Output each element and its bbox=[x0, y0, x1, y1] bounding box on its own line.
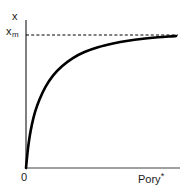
y-axis-asymptote-label: xm bbox=[6, 26, 19, 39]
origin-label: 0 bbox=[21, 172, 27, 183]
x-axis-label-superscript: * bbox=[161, 171, 165, 181]
data-curve bbox=[26, 36, 176, 168]
plot-area bbox=[0, 0, 180, 190]
x-axis-label: Pory* bbox=[138, 172, 164, 185]
x-axis-label-base: Pory bbox=[138, 173, 161, 185]
asymptote-label-subscript: m bbox=[12, 30, 19, 39]
y-axis-label: x bbox=[12, 11, 18, 22]
asymptote-label-base: x bbox=[6, 25, 12, 37]
chart-figure: x xm 0 Pory* bbox=[0, 0, 180, 190]
